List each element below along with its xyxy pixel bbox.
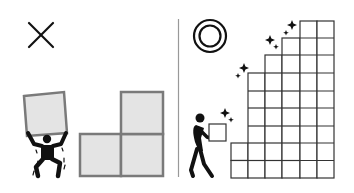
right-panel [191,20,334,178]
large-box-lifted [24,92,67,136]
comparison-illustration [0,0,354,193]
walking-person-icon [191,114,213,177]
large-box-stack [80,92,163,176]
left-panel [24,23,163,176]
cross-mark-icon [29,23,53,47]
small-box-staircase [231,21,334,178]
small-box-carried [209,124,226,141]
double-circle-icon [194,20,226,52]
straining-person-icon [28,133,66,176]
